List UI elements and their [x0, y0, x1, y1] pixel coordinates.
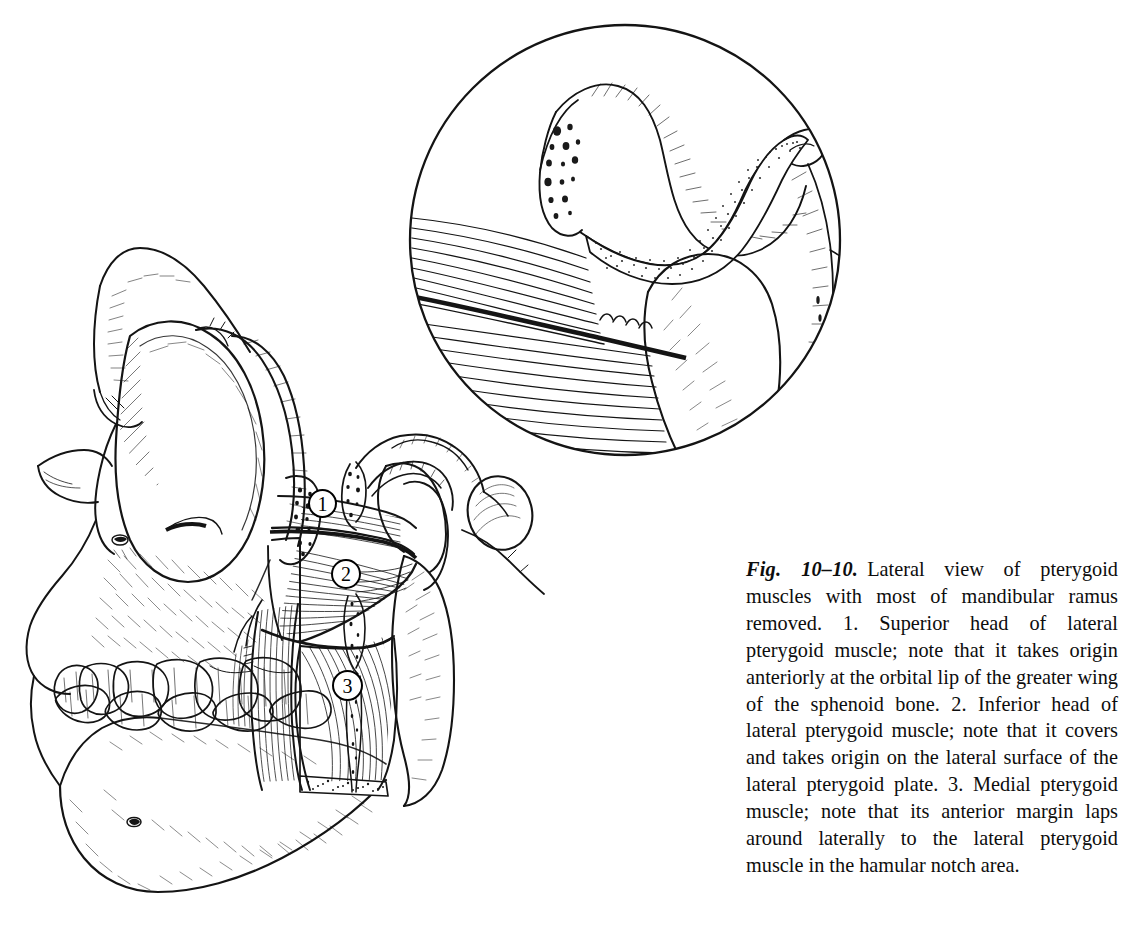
inset-detail-circle — [408, 23, 858, 540]
mastoid-process — [460, 469, 540, 556]
medial-pterygoid-anterior-slip — [251, 604, 302, 792]
figure-caption: Fig. 10–10.Lateral view of pterygoid mus… — [746, 556, 1118, 879]
callout-1-superior-head: 1 — [308, 489, 337, 518]
figure-10-10: 1 2 3 Fig. 10–10.Lateral view of pterygo… — [0, 0, 1135, 944]
callout-3-medial-pterygoid: 3 — [332, 670, 363, 701]
figure-label: Fig. 10–10. — [746, 558, 858, 580]
inferior-head-lateral-pterygoid — [268, 538, 416, 650]
callout-2-inferior-head: 2 — [331, 559, 361, 589]
figure-caption-text: Lateral view of pterygoid muscles with m… — [746, 558, 1118, 876]
